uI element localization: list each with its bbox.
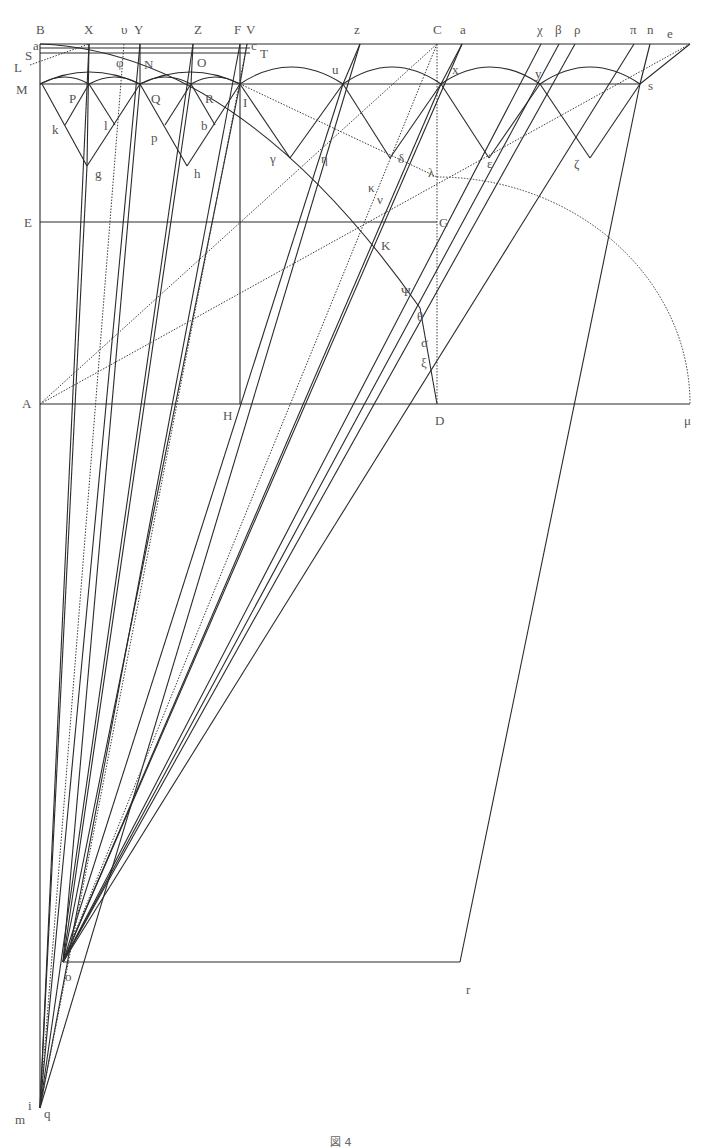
point-label: u	[332, 62, 339, 77]
point-label: n	[647, 22, 654, 37]
point-label: χ	[536, 22, 543, 37]
construction-line	[460, 84, 640, 962]
point-label: x	[452, 62, 459, 77]
point-label: D	[435, 413, 444, 428]
construction-line	[40, 44, 360, 1108]
arc	[240, 67, 343, 84]
point-label: L	[14, 60, 22, 75]
point-label: o	[65, 969, 72, 984]
point-label: V	[246, 22, 256, 37]
point-label: G	[439, 215, 448, 230]
point-label: k	[52, 122, 59, 137]
point-label: A	[22, 396, 32, 411]
point-label: P	[69, 91, 76, 106]
point-label: i	[28, 1098, 32, 1113]
construction-line	[140, 84, 187, 166]
construction-line	[63, 84, 343, 962]
point-label: ν	[377, 192, 383, 207]
point-label: Q	[151, 91, 161, 106]
dotted-construction-line	[63, 44, 437, 962]
point-label: a	[33, 38, 39, 53]
geometric-construction-diagram: BXυYZFVzCaχβρπneaSLcTφNOMPQRIuxysklpbghγ…	[0, 0, 713, 1148]
point-label: δ	[398, 151, 404, 166]
point-label: η	[321, 151, 328, 166]
construction-line	[441, 84, 489, 158]
point-label: c	[251, 38, 257, 53]
dotted-construction-line	[30, 44, 89, 65]
figure-caption: 図 4	[330, 1136, 352, 1148]
construction-line	[290, 84, 343, 158]
construction-line	[540, 84, 590, 158]
point-label: F	[234, 22, 241, 37]
construction-line	[40, 44, 240, 1108]
point-label: Y	[134, 22, 144, 37]
arc	[540, 67, 640, 84]
dotted-construction-line	[40, 44, 690, 404]
construction-line	[63, 44, 634, 962]
point-label: T	[260, 46, 268, 61]
solid-lines	[40, 44, 690, 1108]
point-label: υ	[121, 22, 127, 37]
point-label: Z	[194, 22, 202, 37]
dotted-construction-line	[40, 44, 247, 1108]
construction-line	[63, 84, 140, 962]
point-label: h	[194, 166, 201, 181]
point-label: R	[205, 91, 214, 106]
point-label: E	[24, 215, 32, 230]
point-label: N	[144, 57, 154, 72]
point-label: B	[36, 22, 45, 37]
point-label: M	[16, 82, 28, 97]
point-label: I	[243, 95, 247, 110]
point-label: β	[555, 22, 562, 37]
point-labels: BXυYZFVzCaχβρπneaSLcTφNOMPQRIuxysklpbghγ…	[14, 22, 691, 1127]
point-label: p	[151, 130, 158, 145]
construction-line	[63, 44, 559, 962]
point-label: q	[44, 1106, 51, 1121]
construction-line	[165, 84, 191, 125]
point-label: H	[223, 408, 232, 423]
point-label: K	[381, 238, 391, 253]
point-label: a	[460, 22, 466, 37]
point-label: σ	[421, 335, 428, 350]
point-label: ε	[487, 156, 493, 171]
point-label: s	[648, 78, 653, 93]
construction-line	[63, 84, 191, 962]
point-label: S	[25, 48, 32, 63]
construction-line	[89, 84, 115, 125]
point-label: γ	[269, 151, 276, 166]
construction-line	[63, 44, 541, 962]
dotted-quarter-circle	[437, 177, 690, 404]
construction-line	[63, 44, 462, 962]
point-label: μ	[684, 413, 691, 428]
point-label: C	[433, 22, 442, 37]
construction-line	[240, 84, 290, 158]
arc	[40, 77, 89, 84]
point-label: y	[535, 66, 542, 81]
point-label: e	[667, 26, 673, 41]
construction-line	[40, 44, 193, 1108]
point-label: z	[354, 22, 360, 37]
point-label: l	[104, 118, 108, 133]
point-label: π	[630, 22, 637, 37]
construction-line	[42, 84, 87, 166]
point-label: X	[84, 22, 94, 37]
construction-line	[40, 44, 140, 1108]
construction-line	[343, 84, 390, 158]
construction-line	[390, 84, 441, 158]
point-label: ρ	[574, 22, 581, 37]
point-label: b	[201, 118, 208, 133]
point-label: r	[466, 982, 471, 997]
point-label: φ	[116, 55, 124, 70]
point-label: g	[95, 166, 102, 181]
point-label: ξ	[421, 355, 427, 370]
point-label: θ	[417, 309, 423, 324]
arc	[89, 77, 140, 84]
point-label: O	[197, 55, 206, 70]
point-label: λ	[428, 165, 435, 180]
point-label: ζ	[574, 156, 580, 171]
point-label: Ψ	[401, 284, 411, 299]
point-label: m	[15, 1112, 25, 1127]
point-label: κ	[368, 180, 375, 195]
